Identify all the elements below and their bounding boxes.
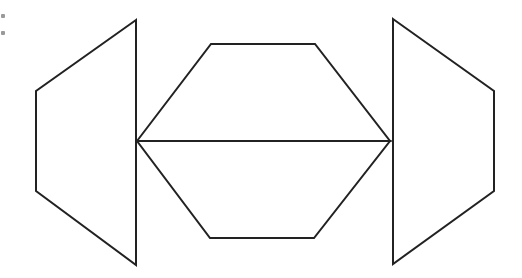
hexagon-lower-half xyxy=(137,141,390,238)
edge-mark xyxy=(1,31,5,35)
left-trapezoid xyxy=(36,20,136,265)
hexagon-upper-half xyxy=(137,44,390,141)
diagram-canvas xyxy=(0,0,522,278)
edge-mark xyxy=(1,14,5,18)
right-trapezoid xyxy=(393,19,494,264)
